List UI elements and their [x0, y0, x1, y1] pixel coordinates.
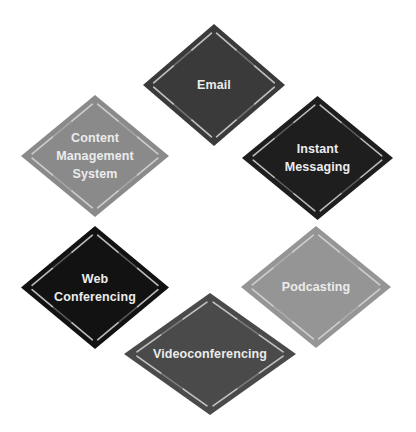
node-label: Web Conferencing	[21, 226, 169, 349]
label-line: Content	[71, 129, 119, 147]
label-line: Management	[56, 147, 133, 165]
label-line: Web	[82, 270, 108, 288]
label-line: Videoconferencing	[153, 345, 267, 363]
label-line: Conferencing	[54, 288, 136, 306]
label-line: Email	[197, 76, 231, 94]
node-web-conferencing: Web Conferencing	[21, 226, 169, 349]
node-label: Instant Messaging	[242, 96, 393, 220]
label-line: System	[72, 165, 117, 183]
node-content-management-system: Content Management System	[21, 95, 169, 217]
node-instant-messaging: Instant Messaging	[242, 96, 393, 220]
diagram-canvas: Email Instant Messaging Podcasting Video…	[0, 0, 416, 432]
label-line: Instant	[297, 140, 339, 158]
label-line: Messaging	[285, 158, 351, 176]
node-label: Content Management System	[21, 95, 169, 217]
